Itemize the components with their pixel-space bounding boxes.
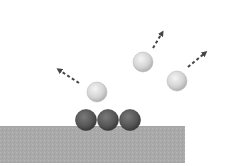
substrate [0, 126, 185, 163]
adsorbed-atom [98, 110, 119, 131]
desorption-diagram [0, 0, 230, 166]
desorbed-atom [167, 71, 187, 91]
dashed-arrow-icon [188, 53, 205, 67]
desorbed-atom [133, 52, 153, 72]
adsorbed-atom [120, 110, 141, 131]
desorbed-atoms [87, 52, 187, 102]
adsorbed-atom [76, 110, 97, 131]
substrate-block [0, 126, 185, 163]
desorbed-atom [87, 82, 107, 102]
adsorbed-atoms [76, 110, 141, 131]
dashed-arrow-icon [153, 33, 162, 48]
dashed-arrow-icon [59, 70, 79, 83]
